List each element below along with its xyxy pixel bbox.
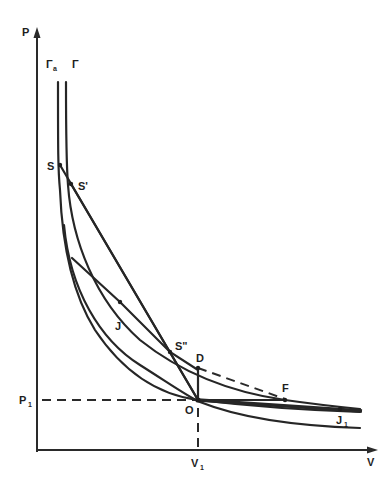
p-axis-arrow-icon <box>34 27 41 38</box>
v-axis-arrow-icon <box>367 447 378 454</box>
p1-subscript: 1 <box>28 401 32 408</box>
v1-label: V <box>191 457 199 469</box>
gamma-label: Γ <box>72 58 79 70</box>
axes <box>34 27 379 454</box>
dashed-line-d-f <box>198 368 285 399</box>
point-f-marker <box>283 398 287 402</box>
point-j1-subscript: 1 <box>344 421 348 428</box>
p-axis-label: P <box>22 26 29 38</box>
p1-label: P <box>19 394 26 406</box>
point-s-double-prime-label: S" <box>175 340 188 352</box>
point-s-prime-marker <box>69 182 73 186</box>
point-s-label: S <box>47 160 54 172</box>
point-j1-label: J <box>336 414 342 426</box>
point-s-prime-label: S' <box>78 180 88 192</box>
rayleigh-line-s-prime-o <box>71 184 198 400</box>
point-f-label: F <box>282 382 289 394</box>
point-o-label: O <box>185 404 194 416</box>
v-axis-label: V <box>367 456 375 468</box>
point-s-double-prime-marker <box>168 350 172 354</box>
lower-adiabat-curve <box>64 225 360 428</box>
gamma-a-label: Γ <box>46 58 53 70</box>
hugoniot-gamma-curve <box>66 82 360 409</box>
point-d-label: D <box>196 352 204 364</box>
point-o-marker <box>195 397 200 402</box>
pv-diagram: P V P 1 V 1 Γ a Γ S S' J S" D F O J 1 <box>0 0 392 498</box>
point-j1-marker <box>338 407 342 411</box>
gamma-a-subscript: a <box>53 65 57 72</box>
point-j-label: J <box>115 320 121 332</box>
v1-subscript: 1 <box>200 464 204 471</box>
point-j-marker <box>118 300 122 304</box>
point-d-marker <box>196 366 200 370</box>
hugoniot-gamma-a-curve <box>58 82 360 412</box>
point-s-marker <box>58 163 62 167</box>
